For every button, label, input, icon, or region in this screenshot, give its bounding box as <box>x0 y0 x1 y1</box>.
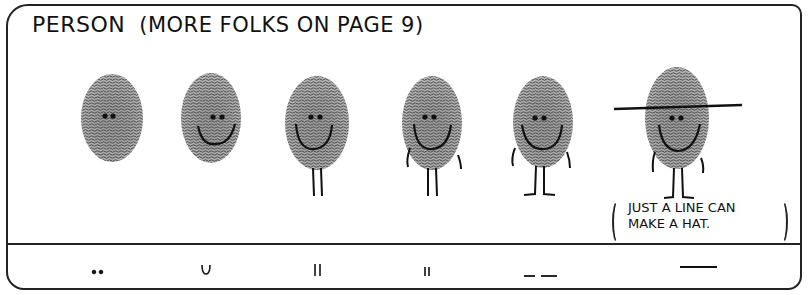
note-line-1: JUST A LINE CAN <box>628 200 792 216</box>
stroke-key-row <box>92 264 717 276</box>
thumbprint-figure-3 <box>285 76 349 196</box>
key-smile-icon <box>202 265 210 274</box>
legs-icon <box>313 168 322 196</box>
thumbprint-figure-1 <box>81 74 143 162</box>
key-legs-icon <box>315 264 320 276</box>
hat-note: JUST A LINE CAN MAKE A HAT. <box>612 200 792 240</box>
thumbprint-figure-5 <box>512 76 573 195</box>
key-dots-icon <box>92 270 103 274</box>
feet-icon <box>524 166 555 195</box>
note-line-2: MAKE A HAT. <box>628 216 792 232</box>
thumbprint-figure-2 <box>181 73 241 163</box>
key-arms-icon <box>425 267 429 276</box>
figures-layer <box>0 0 808 295</box>
thumbprint-figure-6 <box>614 67 742 198</box>
thumbprint-figure-4 <box>402 76 462 196</box>
